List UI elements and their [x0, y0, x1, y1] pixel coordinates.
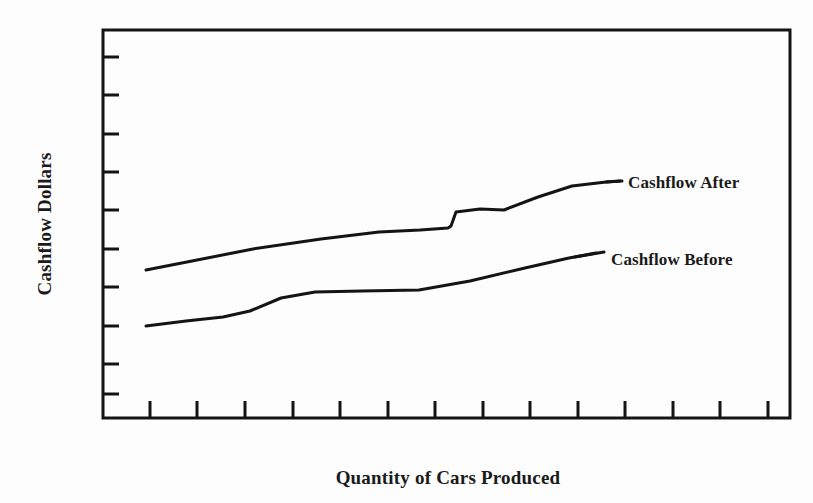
series-line-cashflow-after	[146, 181, 620, 270]
x-axis-ticks	[150, 401, 768, 418]
series-label-cashflow-before: Cashflow Before	[611, 250, 733, 269]
y-axis-title: Cashflow Dollars	[34, 152, 55, 295]
y-axis-ticks	[103, 57, 119, 394]
chart-figure: Cashflow After Cashflow Before Cashflow …	[0, 0, 813, 503]
plot-area-border	[103, 30, 790, 418]
series-label-cashflow-after: Cashflow After	[628, 173, 740, 192]
series-line-cashflow-before	[146, 253, 596, 326]
leader-line-cashflow-after	[606, 181, 622, 182]
x-axis-title: Quantity of Cars Produced	[336, 467, 561, 488]
chart-canvas: Cashflow After Cashflow Before Cashflow …	[0, 0, 813, 503]
